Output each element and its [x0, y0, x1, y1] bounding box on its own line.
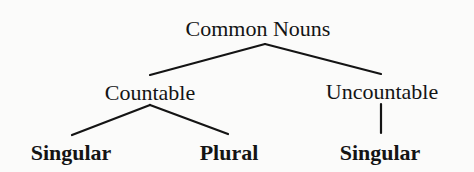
node-common-nouns: Common Nouns [186, 18, 331, 40]
node-uncountable: Uncountable [326, 81, 438, 103]
edge-root-countable [150, 44, 265, 75]
edge-countable-singular [72, 105, 150, 135]
node-countable: Countable [105, 82, 195, 104]
edge-root-uncountable [265, 44, 381, 74]
edge-countable-plural [150, 105, 228, 134]
noun-tree-diagram: Common Nouns Countable Uncountable Singu… [0, 0, 474, 172]
node-uncountable-singular: Singular [340, 142, 421, 164]
node-countable-singular: Singular [31, 142, 112, 164]
node-countable-plural: Plural [200, 142, 259, 164]
